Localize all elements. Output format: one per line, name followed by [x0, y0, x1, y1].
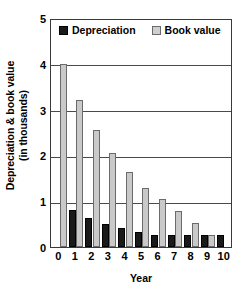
- legend-label-depreciation: Depreciation: [72, 24, 136, 36]
- bar-book-value-year-5: [142, 188, 149, 247]
- bar-depreciation-year-2: [85, 218, 92, 247]
- bar-book-value-year-0: [60, 64, 67, 247]
- x-axis-tick-2: 2: [88, 250, 94, 262]
- y-axis-title-line-2: (in thousands): [17, 60, 30, 189]
- bar-book-value-year-1: [76, 100, 83, 247]
- x-axis-tick-7: 7: [171, 250, 177, 262]
- x-axis-tick-9: 9: [204, 250, 210, 262]
- x-axis-tick-5: 5: [138, 250, 144, 262]
- y-axis-tick-5: 5: [32, 13, 46, 25]
- bar-book-value-year-9: [208, 235, 215, 247]
- bar-depreciation-year-5: [135, 232, 142, 247]
- bar-book-value-year-6: [159, 199, 166, 247]
- x-axis-title: Year: [50, 272, 232, 284]
- bar-book-value-year-8: [192, 223, 199, 247]
- x-axis-tick-labels: 012345678910: [50, 250, 232, 266]
- gray-square-swatch-icon: [152, 26, 161, 35]
- y-axis-tick-3: 3: [32, 105, 46, 117]
- black-square-swatch-icon: [59, 26, 68, 35]
- bar-book-value-year-4: [126, 172, 133, 247]
- bar-series-container: [51, 20, 231, 247]
- bar-depreciation-year-9: [201, 235, 208, 247]
- bar-depreciation-year-6: [151, 235, 158, 247]
- y-axis-title: Depreciation & book value (in thousands): [0, 0, 34, 250]
- x-axis-tick-6: 6: [154, 250, 160, 262]
- bar-book-value-year-2: [93, 130, 100, 247]
- x-axis-tick-3: 3: [105, 250, 111, 262]
- legend-item-depreciation: Depreciation: [59, 24, 136, 36]
- legend-item-book-value: Book value: [152, 24, 221, 36]
- chart-figure: Depreciation & book value (in thousands)…: [0, 0, 245, 303]
- y-axis-title-line-1: Depreciation & book value: [5, 60, 18, 189]
- bar-depreciation-year-8: [184, 235, 191, 247]
- x-axis-tick-0: 0: [55, 250, 61, 262]
- x-axis-tick-1: 1: [72, 250, 78, 262]
- y-axis-tick-1: 1: [32, 196, 46, 208]
- y-axis-tick-0: 0: [32, 242, 46, 254]
- bar-depreciation-year-4: [118, 228, 125, 247]
- bar-book-value-year-3: [109, 153, 116, 247]
- bar-depreciation-year-10: [217, 235, 224, 247]
- legend-label-book-value: Book value: [165, 24, 221, 36]
- chart-legend: Depreciation Book value: [59, 24, 221, 36]
- x-axis-tick-10: 10: [218, 250, 230, 262]
- bar-depreciation-year-3: [102, 224, 109, 247]
- x-axis-tick-4: 4: [121, 250, 127, 262]
- plot-area: Depreciation Book value: [50, 19, 232, 248]
- bar-book-value-year-7: [175, 211, 182, 247]
- bar-depreciation-year-7: [168, 235, 175, 247]
- y-axis-tick-4: 4: [32, 59, 46, 71]
- x-axis-tick-8: 8: [188, 250, 194, 262]
- y-axis-tick-labels: 012345: [30, 0, 46, 303]
- bar-depreciation-year-1: [69, 210, 76, 247]
- y-axis-tick-2: 2: [32, 150, 46, 162]
